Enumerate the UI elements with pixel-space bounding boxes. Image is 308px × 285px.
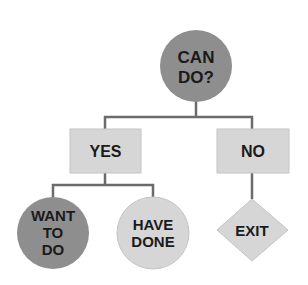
node-want-to-do: WANT TO DO: [17, 197, 89, 269]
node-want-to-do-line-3: DO: [42, 241, 65, 258]
node-want-to-do-line-2: TO: [43, 224, 64, 241]
node-no-label: NO: [241, 143, 265, 160]
node-exit-label: EXIT: [235, 222, 268, 239]
decision-tree-diagram: CAN DO? YES NO WANT TO DO HAVE DONE EXIT: [0, 0, 308, 285]
node-no: NO: [217, 129, 289, 173]
node-can-do-line-2: DO?: [178, 68, 214, 87]
node-exit: EXIT: [217, 199, 288, 261]
node-have-done-line-2: DONE: [131, 233, 174, 250]
node-yes: YES: [70, 129, 141, 173]
edge-root-branches: [105, 117, 252, 129]
node-have-done: HAVE DONE: [117, 197, 189, 269]
node-can-do-line-1: CAN: [178, 48, 215, 67]
node-have-done-line-1: HAVE: [133, 216, 174, 233]
node-can-do: CAN DO?: [160, 30, 232, 102]
node-yes-label: YES: [89, 143, 121, 160]
node-want-to-do-line-1: WANT: [31, 207, 75, 224]
edge-yes-branches: [53, 185, 153, 197]
